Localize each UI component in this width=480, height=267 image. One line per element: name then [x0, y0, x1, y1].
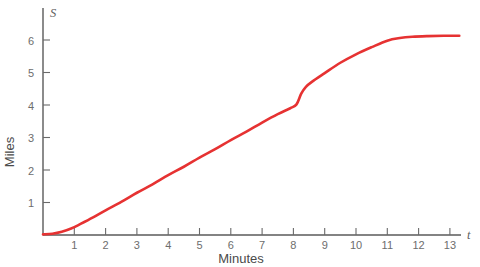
y-tick-label-1: 1: [28, 197, 34, 209]
x-tick-label-9: 9: [322, 239, 328, 251]
y-tick-label-5: 5: [28, 67, 34, 79]
chart-figure: 6 5 4 3 2 1 1 2 3 4 5 6: [0, 0, 480, 267]
y-tick-label-6: 6: [28, 35, 34, 47]
x-tick-label-4: 4: [165, 239, 171, 251]
y-axis-ticks: 6 5 4 3 2 1: [28, 35, 50, 210]
x-tick-label-8: 8: [290, 239, 296, 251]
x-tick-label-7: 7: [259, 239, 265, 251]
distance-curve: [43, 36, 459, 235]
x-axis-variable-label: t: [467, 228, 471, 242]
y-tick-label-3: 3: [28, 132, 34, 144]
x-tick-label-3: 3: [134, 239, 140, 251]
x-tick-label-13: 13: [444, 239, 456, 251]
x-tick-label-1: 1: [71, 239, 77, 251]
line-chart-canvas: 6 5 4 3 2 1 1 2 3 4 5 6: [0, 0, 480, 267]
y-tick-label-2: 2: [28, 165, 34, 177]
x-tick-label-5: 5: [196, 239, 202, 251]
x-tick-label-10: 10: [350, 239, 362, 251]
x-tick-label-11: 11: [382, 239, 393, 251]
y-tick-label-4: 4: [28, 100, 34, 112]
x-tick-label-2: 2: [103, 239, 109, 251]
axes-group: [43, 8, 461, 235]
y-axis-variable-label: S: [50, 6, 57, 20]
y-axis-title: Miles: [2, 136, 17, 167]
x-tick-label-12: 12: [412, 239, 424, 251]
x-tick-label-6: 6: [228, 239, 234, 251]
x-axis-ticks: 1 2 3 4 5 6 7 8 9 10 11 12 13: [71, 228, 456, 251]
x-axis-title: Minutes: [218, 251, 264, 266]
